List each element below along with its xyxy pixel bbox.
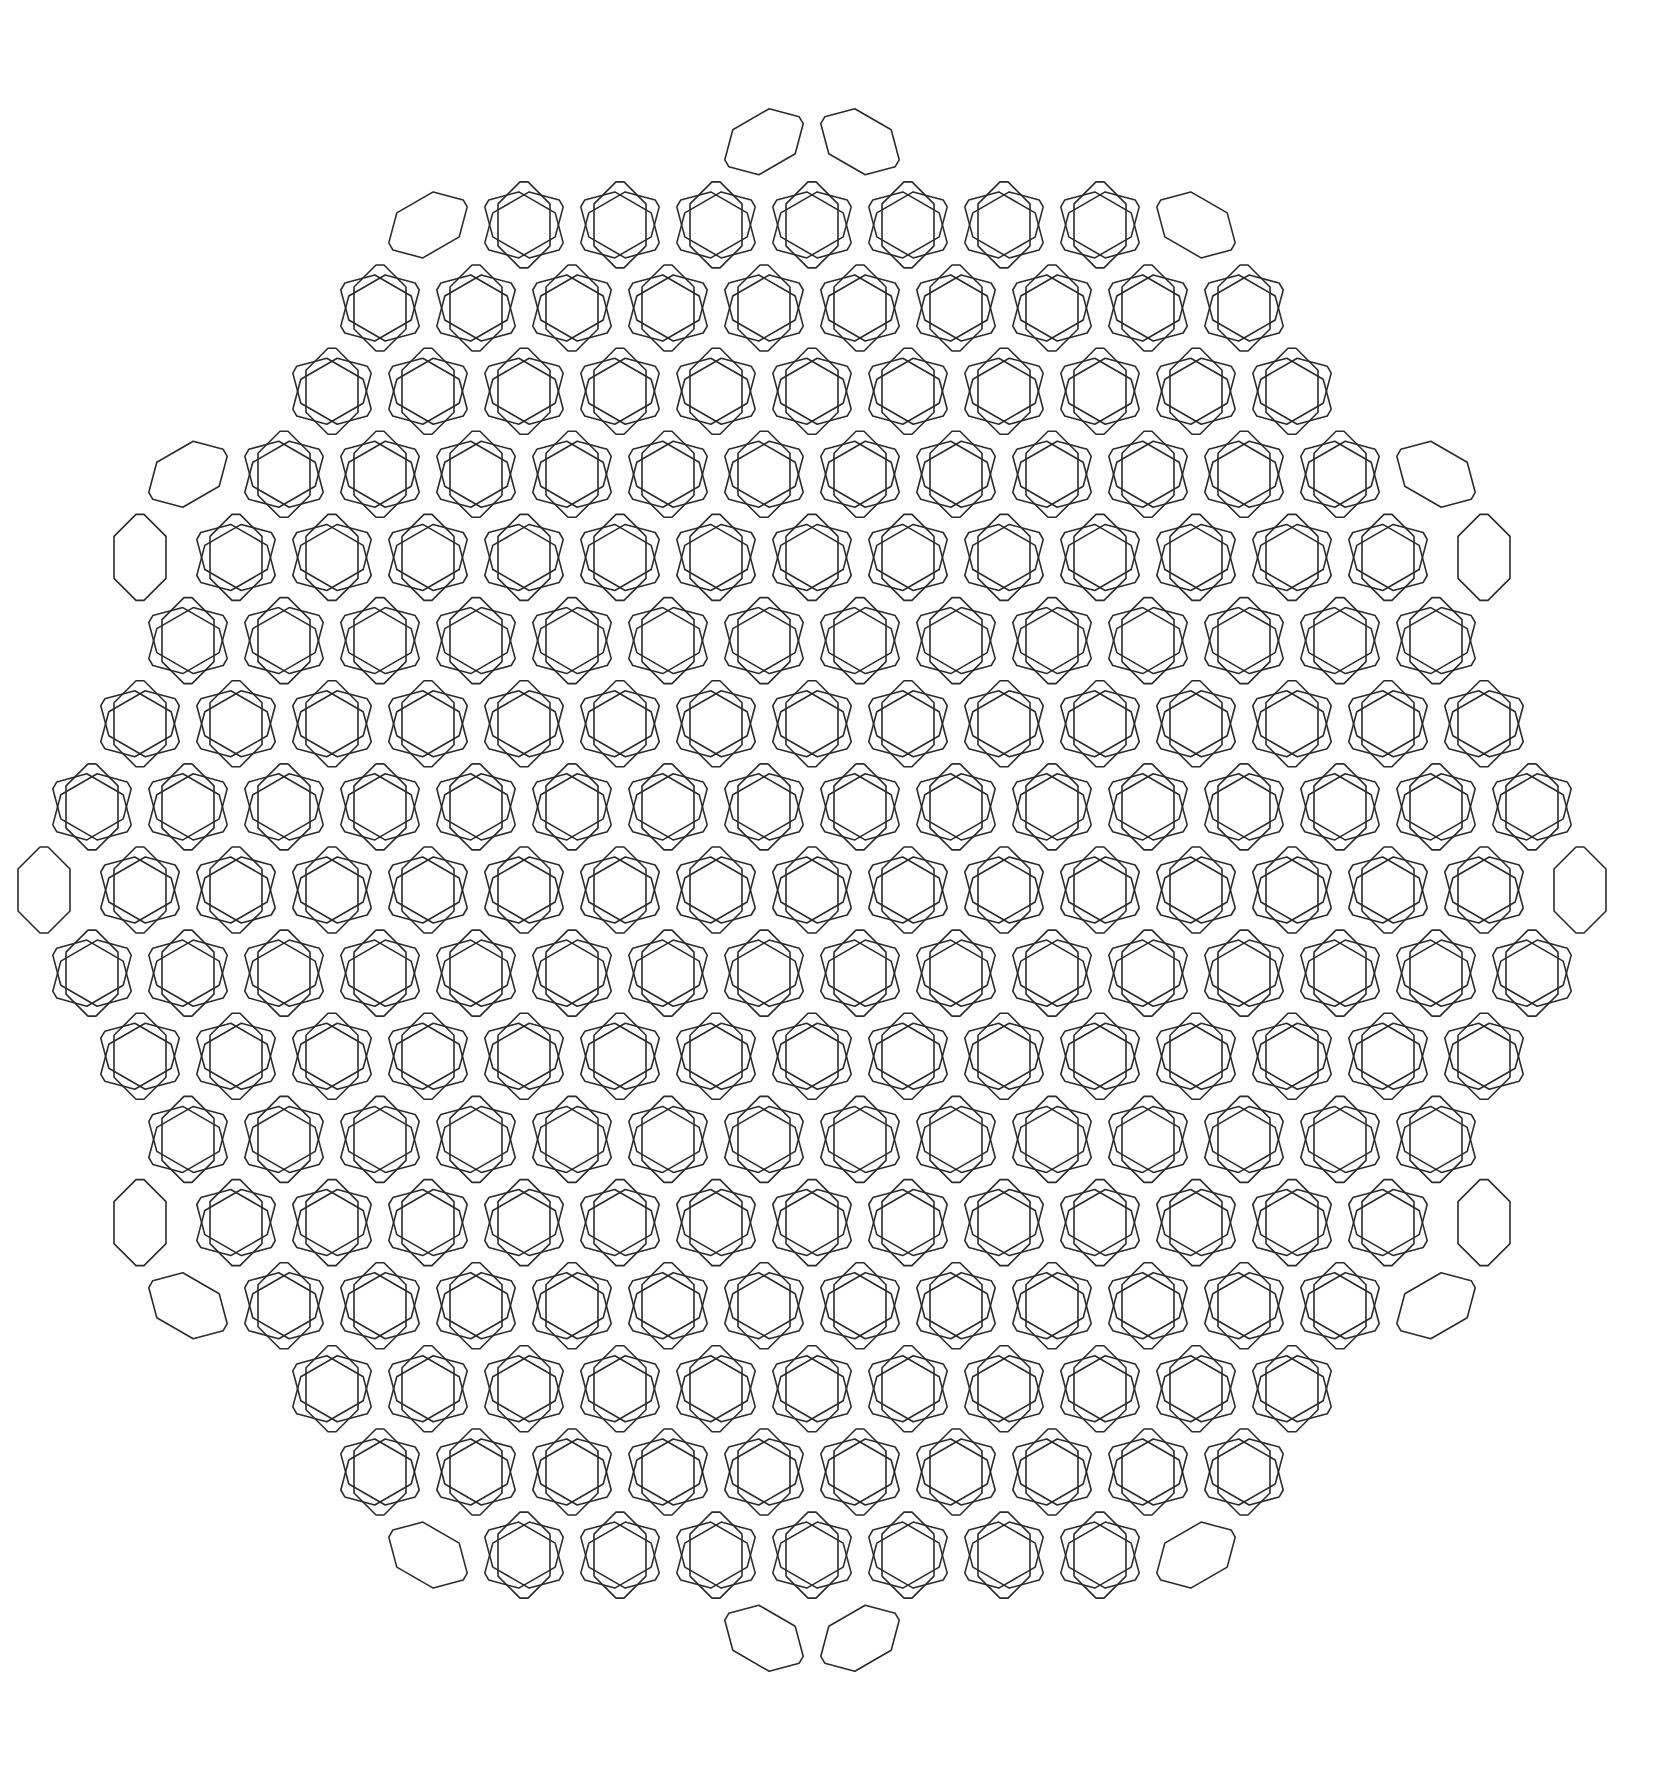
octagon-outline	[1157, 1190, 1235, 1256]
octagon-outline	[245, 608, 323, 674]
octagon-outline	[485, 857, 563, 923]
octagon-outline	[389, 1522, 467, 1588]
octagon-outline	[965, 192, 1043, 258]
octagon-outline	[1445, 691, 1523, 757]
octagon-outline	[1301, 1106, 1379, 1172]
octagon-outline	[389, 857, 467, 923]
octagon-outline	[629, 275, 707, 341]
octagon-outline	[965, 1356, 1043, 1422]
octagon-outline	[677, 524, 755, 590]
octagon-outline	[629, 608, 707, 674]
octagon-outline	[581, 691, 659, 757]
octagon-outline	[114, 514, 166, 600]
octagon-outline	[1013, 1106, 1091, 1172]
octagon-outline	[917, 774, 995, 840]
octagon-outline	[1301, 1273, 1379, 1339]
octagon-outline	[101, 857, 179, 923]
octagon-outline	[1205, 441, 1283, 507]
octagon-outline	[1013, 608, 1091, 674]
octagon-outline	[965, 1356, 1043, 1422]
octagon-outline	[1445, 1023, 1523, 1089]
octagon-outline	[1301, 441, 1379, 507]
octagon-outline	[245, 441, 323, 507]
octagon-outline	[101, 691, 179, 757]
octagon-outline	[773, 192, 851, 258]
octagon-outline	[629, 1439, 707, 1505]
octagon-outline	[869, 192, 947, 258]
octagon-outline	[1109, 1439, 1187, 1505]
octagon-outline	[437, 1106, 515, 1172]
octagon-outline	[1013, 1439, 1091, 1505]
octagon-outline	[1493, 774, 1571, 840]
octagon-outline	[1205, 1439, 1283, 1505]
octagon-outline	[581, 192, 659, 258]
octagon-outline	[725, 109, 803, 175]
octagon-outline	[245, 774, 323, 840]
octagon-outline	[1205, 774, 1283, 840]
octagon-outline	[293, 1023, 371, 1089]
octagon-outline	[1061, 192, 1139, 258]
octagon-outline	[821, 1106, 899, 1172]
octagon-outline	[1013, 1439, 1091, 1505]
octagon-outline	[485, 358, 563, 424]
octagon-outline	[725, 608, 803, 674]
octagon-outline	[293, 1356, 371, 1422]
octagon-outline	[149, 1106, 227, 1172]
octagon-outline	[197, 524, 275, 590]
octagon-outline	[341, 940, 419, 1006]
octagon-outline	[773, 1522, 851, 1588]
octagon-outline	[965, 192, 1043, 258]
octagon-outline	[245, 774, 323, 840]
octagon-outline	[149, 441, 227, 507]
octagon-outline	[1397, 1273, 1475, 1339]
octagon-outline	[485, 1190, 563, 1256]
octagon-outline	[773, 358, 851, 424]
octagon-outline	[869, 524, 947, 590]
octagon-outline	[1013, 940, 1091, 1006]
octagon-outline	[1061, 1356, 1139, 1422]
octagon-outline	[725, 774, 803, 840]
octagon-outline	[869, 1190, 947, 1256]
octagon-outline	[773, 1023, 851, 1089]
octagon-outline	[18, 847, 70, 933]
octagon-outline	[293, 691, 371, 757]
octagon-outline	[197, 691, 275, 757]
octagon-outline	[437, 608, 515, 674]
octagon-outline	[485, 192, 563, 258]
octagon-outline	[917, 1439, 995, 1505]
octagon-outline	[677, 1356, 755, 1422]
octagon-outline	[1157, 1356, 1235, 1422]
octagon-outline	[149, 774, 227, 840]
octagon-outline	[725, 1273, 803, 1339]
octagon-outline	[437, 608, 515, 674]
octagon-outline	[773, 1356, 851, 1422]
octagon-outline	[1397, 608, 1475, 674]
octagon-outline	[1493, 940, 1571, 1006]
octagon-outline	[1205, 275, 1283, 341]
octagon-outline	[293, 1023, 371, 1089]
octagon-outline	[1061, 358, 1139, 424]
octagon-outline	[1205, 1106, 1283, 1172]
octagon-outline	[341, 1106, 419, 1172]
octagon-outline	[629, 1106, 707, 1172]
octagon-outline	[1349, 1190, 1427, 1256]
octagon-outline	[293, 358, 371, 424]
octagon-outline	[1157, 358, 1235, 424]
octagon-outline	[437, 940, 515, 1006]
octagon-outline	[677, 691, 755, 757]
octagon-outline	[773, 1023, 851, 1089]
octagon-outline	[1157, 1023, 1235, 1089]
octagon-outline	[581, 1522, 659, 1588]
octagon-outline	[1205, 940, 1283, 1006]
octagon-outline	[485, 1356, 563, 1422]
octagon-outline	[485, 1023, 563, 1089]
octagon-outline	[341, 1273, 419, 1339]
octagon-outline	[149, 608, 227, 674]
octagon-outline	[437, 774, 515, 840]
octagon-outline	[1205, 1273, 1283, 1339]
octagon-outline	[821, 1439, 899, 1505]
octagon-outline	[917, 608, 995, 674]
octagon-outline	[1109, 1106, 1187, 1172]
octagon-outline	[965, 691, 1043, 757]
octagon-outline	[437, 1106, 515, 1172]
